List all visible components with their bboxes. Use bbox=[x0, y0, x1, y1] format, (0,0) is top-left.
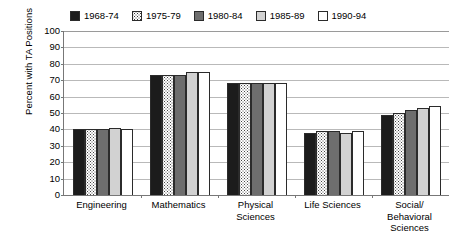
legend-swatch-dotted bbox=[132, 11, 142, 21]
x-axis-label-line: Behavioral bbox=[371, 211, 448, 223]
x-axis-label-line: Mathematics bbox=[140, 199, 217, 211]
x-axis-label: PhysicalSciences bbox=[217, 199, 294, 234]
x-axis-label-line: Sciences bbox=[217, 211, 294, 223]
legend-item-label: 1968-74 bbox=[84, 11, 119, 21]
chart-legend: 1968-741975-791980-841985-891990-94 bbox=[70, 9, 442, 23]
y-tick-label: 40 bbox=[49, 125, 60, 135]
legend-swatch-light-gray bbox=[256, 11, 266, 21]
bar-group bbox=[218, 31, 295, 195]
x-axis-label-line: Social/ bbox=[371, 199, 448, 211]
x-tick-mark bbox=[141, 195, 142, 198]
legend-item-1990-94: 1990-94 bbox=[318, 9, 367, 23]
y-tick-label: 0 bbox=[55, 190, 60, 200]
legend-item-label: 1990-94 bbox=[332, 11, 367, 21]
bar-1980-84 bbox=[97, 129, 109, 195]
x-axis-label-line: Life Sciences bbox=[294, 199, 371, 211]
bar-1980-84 bbox=[328, 131, 340, 195]
x-axis-label-line: Sciences bbox=[371, 222, 448, 234]
bar-1985-89 bbox=[340, 133, 352, 195]
bar-group bbox=[295, 31, 372, 195]
x-axis-label-line: Engineering bbox=[63, 199, 140, 211]
legend-item-1975-79: 1975-79 bbox=[132, 9, 181, 23]
x-axis-label: Engineering bbox=[63, 199, 140, 234]
legend-item-1980-84: 1980-84 bbox=[194, 9, 243, 23]
bar-group bbox=[372, 31, 449, 195]
bar-1975-79 bbox=[162, 75, 174, 195]
legend-item-1968-74: 1968-74 bbox=[70, 9, 119, 23]
bar-1985-89 bbox=[186, 72, 198, 195]
bar-1975-79 bbox=[85, 129, 97, 195]
y-tick-label: 70 bbox=[49, 75, 60, 85]
bar-1985-89 bbox=[109, 128, 121, 195]
x-tick-mark bbox=[218, 195, 219, 198]
y-tick-label: 10 bbox=[49, 174, 60, 184]
bar-1980-84 bbox=[174, 75, 186, 195]
bar-1990-94 bbox=[429, 106, 441, 195]
legend-item-label: 1975-79 bbox=[146, 11, 181, 21]
x-axis-label: Social/BehavioralSciences bbox=[371, 199, 448, 234]
bar-set bbox=[304, 31, 364, 195]
bar-1980-84 bbox=[405, 110, 417, 195]
bar-1985-89 bbox=[263, 83, 275, 195]
y-tick-label: 80 bbox=[49, 59, 60, 69]
bar-1975-79 bbox=[393, 113, 405, 195]
legend-swatch-white bbox=[318, 11, 328, 21]
y-tick-label: 100 bbox=[44, 26, 60, 36]
bar-1990-94 bbox=[198, 72, 210, 195]
bar-1975-79 bbox=[239, 83, 251, 195]
bar-set bbox=[227, 31, 287, 195]
bar-1990-94 bbox=[352, 131, 364, 195]
legend-item-1985-89: 1985-89 bbox=[256, 9, 305, 23]
y-tick-mark bbox=[61, 195, 64, 196]
x-axis-label: Life Sciences bbox=[294, 199, 371, 234]
plot-area: 1009080706050403020100 bbox=[63, 31, 449, 196]
y-tick-label: 90 bbox=[49, 43, 60, 53]
y-tick-label: 20 bbox=[49, 157, 60, 167]
bar-1968-74 bbox=[304, 133, 316, 195]
bar-set bbox=[381, 31, 441, 195]
y-tick-label: 50 bbox=[49, 108, 60, 118]
bar-1975-79 bbox=[316, 131, 328, 195]
bar-1990-94 bbox=[121, 129, 133, 195]
bar-1990-94 bbox=[275, 83, 287, 195]
y-tick-label: 60 bbox=[49, 92, 60, 102]
bar-1968-74 bbox=[150, 75, 162, 195]
bar-group bbox=[64, 31, 141, 195]
bar-1968-74 bbox=[73, 129, 85, 195]
x-axis-labels: EngineeringMathematicsPhysicalSciencesLi… bbox=[63, 199, 448, 234]
legend-item-label: 1980-84 bbox=[208, 11, 243, 21]
x-axis-label: Mathematics bbox=[140, 199, 217, 234]
bar-1968-74 bbox=[227, 83, 239, 195]
bar-set bbox=[73, 31, 133, 195]
bar-1985-89 bbox=[417, 108, 429, 195]
legend-swatch-dark-gray bbox=[194, 11, 204, 21]
legend-swatch-solid-black bbox=[70, 11, 80, 21]
y-tick-label: 30 bbox=[49, 141, 60, 151]
bar-chart: 1968-741975-791980-841985-891990-94 Perc… bbox=[0, 0, 454, 241]
bar-1980-84 bbox=[251, 83, 263, 195]
legend-item-label: 1985-89 bbox=[270, 11, 305, 21]
x-tick-mark bbox=[372, 195, 373, 198]
x-axis-label-line: Physical bbox=[217, 199, 294, 211]
x-tick-mark bbox=[295, 195, 296, 198]
y-axis-title: Percent with TA Positions bbox=[23, 0, 34, 142]
bar-set bbox=[150, 31, 210, 195]
bar-1968-74 bbox=[381, 115, 393, 195]
bar-groups bbox=[64, 31, 449, 195]
bar-group bbox=[141, 31, 218, 195]
